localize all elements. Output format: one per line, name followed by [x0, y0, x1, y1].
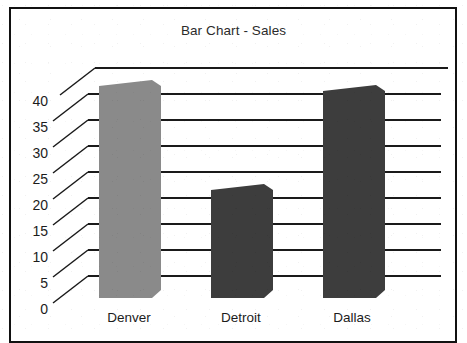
depthline-40	[53, 94, 88, 121]
y-tick-40: 40	[32, 93, 48, 109]
depthline-45	[60, 68, 95, 95]
depthline-30	[53, 146, 88, 173]
depthline-15	[53, 224, 88, 251]
y-tick-25: 25	[32, 171, 48, 187]
x-label-detroit: Detroit	[221, 310, 261, 325]
bar-detroit[interactable]	[211, 184, 273, 298]
y-tick-0: 0	[40, 301, 48, 317]
bar-denver[interactable]	[99, 80, 161, 298]
depth-lines-group	[53, 68, 95, 303]
y-axis-labels: 40 35 30 25 20 15 10 5 0	[32, 93, 48, 317]
depthline-5	[53, 276, 88, 303]
y-tick-15: 15	[32, 223, 48, 239]
y-tick-20: 20	[32, 197, 48, 213]
bars-group	[99, 80, 385, 298]
y-tick-35: 35	[32, 119, 48, 135]
depthline-25	[53, 172, 88, 199]
x-label-dallas: Dallas	[333, 310, 371, 325]
bar-dallas[interactable]	[323, 85, 385, 298]
y-tick-10: 10	[32, 249, 48, 265]
depthline-20	[53, 198, 88, 225]
x-label-denver: Denver	[107, 310, 151, 325]
depthline-10	[53, 250, 88, 277]
depthline-35	[53, 120, 88, 147]
x-axis-labels: Denver Detroit Dallas	[107, 310, 371, 325]
y-tick-5: 5	[40, 275, 48, 291]
y-tick-30: 30	[32, 145, 48, 161]
